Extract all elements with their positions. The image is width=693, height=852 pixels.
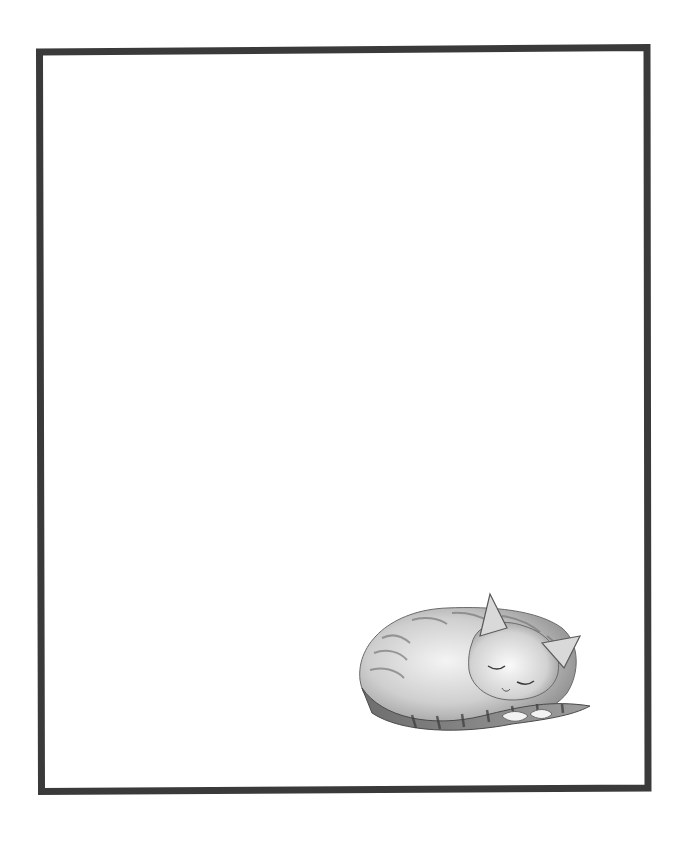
page-canvas <box>0 0 693 852</box>
sleeping-cat-illustration <box>352 588 597 738</box>
